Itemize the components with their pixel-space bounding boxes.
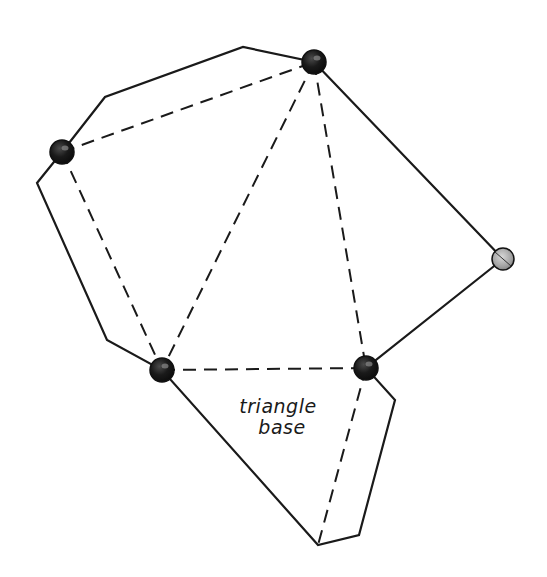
- fold-lines: [62, 62, 366, 545]
- label-line-2: base: [236, 417, 328, 438]
- label-line-1: triangle: [228, 396, 328, 417]
- triangle-base-label: triangle base: [228, 396, 328, 438]
- vertex-dot-e-icon: [492, 248, 514, 270]
- fold-line-b-c: [62, 152, 162, 370]
- net-diagram: [0, 0, 547, 577]
- fold-line-d-bottom: [318, 368, 366, 545]
- vertex-dot-d-icon: [354, 356, 378, 380]
- net-outline: [37, 47, 503, 545]
- vertex-dot-a-icon: [302, 50, 326, 74]
- vertex-dot-b-icon: [50, 140, 74, 164]
- vertices: [50, 50, 514, 382]
- vertex-dot-c-icon: [150, 358, 174, 382]
- fold-line-c-d-base: [162, 368, 366, 370]
